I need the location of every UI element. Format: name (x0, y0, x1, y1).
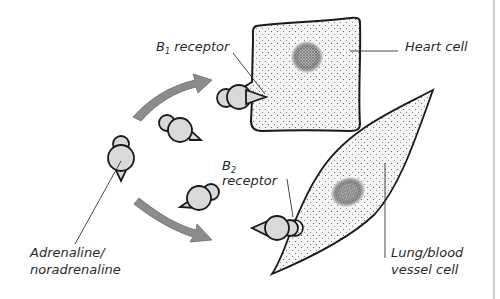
label-adrenaline-line2: noradrenaline (30, 262, 121, 277)
leader-b2-receptor (287, 179, 293, 217)
label-lung-line1: Lung/blood (391, 245, 464, 260)
leader-adrenaline (75, 161, 121, 244)
heart-cell (236, 15, 386, 131)
label-heart-cell: Heart cell (405, 39, 468, 54)
label-adrenaline-line1: Adrenaline/ (29, 245, 106, 260)
label-lung-line2: vessel cell (391, 262, 459, 277)
adrenaline-molecule-icon-free-left (108, 136, 134, 181)
heart-cell-membrane (236, 18, 360, 131)
adrenaline-molecule-icon-free-upper (159, 115, 201, 142)
adrenaline-molecule-icon-bound-b2 (252, 216, 303, 240)
label-b2-receptor-word: receptor (222, 173, 279, 188)
curved-arrow-icon-upper (133, 74, 212, 121)
adrenaline-molecule-icon-free-lower (180, 184, 219, 210)
label-b1-receptor: B1 receptor (156, 39, 231, 56)
adrenaline-receptor-diagram: B1 receptor Heart cell B2 receptor Adren… (0, 0, 500, 299)
